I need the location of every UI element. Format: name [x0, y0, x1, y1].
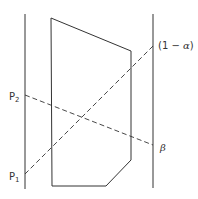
- dashed-line-p2-beta: [25, 95, 153, 145]
- acceptance-region-polygon: [51, 18, 131, 186]
- label-beta: β: [159, 142, 166, 153]
- label-p1: P1: [9, 171, 20, 184]
- label-p2: P2: [9, 91, 20, 104]
- dashed-line-p1-alpha: [25, 46, 153, 174]
- diagram-canvas: P2 P1 (1 − α) β: [0, 0, 198, 199]
- label-one-minus-alpha: (1 − α): [158, 40, 194, 51]
